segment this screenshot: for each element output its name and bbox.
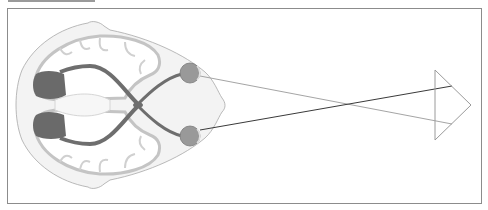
- midbrain: [55, 94, 110, 116]
- object-arrow: [435, 70, 471, 140]
- ray-upper-light: [200, 76, 452, 124]
- ray-lower-dark: [200, 86, 452, 130]
- optic-chiasm: [133, 102, 143, 108]
- visual-cortex-bottom: [33, 112, 66, 139]
- visual-pathway-diagram: [0, 0, 488, 210]
- visual-cortex-top: [33, 71, 66, 99]
